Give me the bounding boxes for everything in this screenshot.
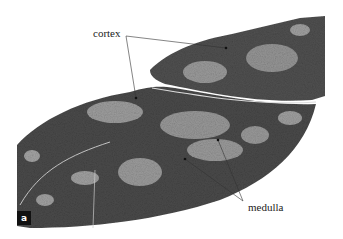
cortex-label: cortex: [93, 28, 120, 39]
medulla-label: medulla: [248, 202, 283, 213]
tissue-section-image: [0, 0, 343, 239]
micrograph-figure: cortex medulla a: [0, 0, 343, 239]
panel-label-badge: a: [17, 211, 31, 225]
